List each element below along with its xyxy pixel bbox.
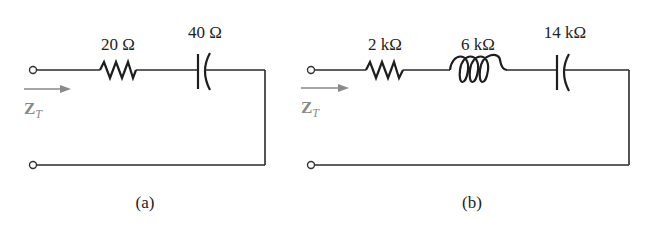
- terminal-a-top: [30, 67, 37, 74]
- panel-b: ZT 2 kΩ 6 kΩ 14 kΩ (b): [301, 23, 629, 212]
- resistor-a-label: 20 Ω: [101, 35, 135, 54]
- capacitor-a-icon: [198, 53, 210, 90]
- terminal-b-top: [308, 67, 315, 74]
- zt-label-a: ZT: [24, 99, 43, 121]
- caption-b: (b): [462, 193, 482, 212]
- circuit-figure: ZT 20 Ω 40 Ω (a) ZT 2 kΩ 6 kΩ 14 kΩ (b): [0, 0, 646, 231]
- capacitor-b-label: 14 kΩ: [544, 23, 586, 42]
- inductor-b-icon: [450, 55, 507, 82]
- inductor-b-label: 6 kΩ: [461, 35, 495, 54]
- arrowhead-a-icon: [60, 85, 71, 93]
- resistor-b-label: 2 kΩ: [368, 35, 402, 54]
- zt-label-b: ZT: [301, 98, 320, 120]
- arrowhead-b-icon: [338, 84, 349, 92]
- panel-a: ZT 20 Ω 40 Ω (a): [24, 23, 265, 212]
- capacitor-b-icon: [557, 54, 569, 91]
- caption-a: (a): [136, 193, 155, 212]
- resistor-a-icon: [100, 62, 136, 78]
- terminal-b-bottom: [308, 162, 315, 169]
- capacitor-a-label: 40 Ω: [188, 23, 222, 42]
- resistor-b-icon: [366, 62, 403, 78]
- terminal-a-bottom: [30, 162, 37, 169]
